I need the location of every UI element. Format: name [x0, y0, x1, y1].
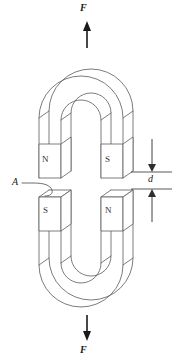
force-label-top: F [80, 3, 87, 13]
upper-crown-depth-right [123, 111, 133, 118]
lower-bend-depth-inner-right [101, 256, 111, 263]
upper-left-pole-side-face [61, 137, 71, 178]
upper-crown-depth-inner-right [101, 113, 111, 120]
arrow-up-icon [83, 21, 91, 31]
dimension-arrow-icon [148, 189, 156, 197]
lower-bend-depth-left [39, 258, 49, 265]
upper-crown-depth-left [39, 111, 49, 118]
pole-label-upper-left: N [42, 155, 49, 164]
lower-magnet [39, 190, 133, 307]
lower-right-pole-side-face [123, 190, 133, 231]
force-arrow-top [83, 21, 91, 48]
lower-left-pole-side-face [61, 190, 71, 231]
dimension-arrow-icon [148, 164, 156, 172]
pole-label-lower-left: S [43, 206, 48, 215]
lower-bend-depth-right [123, 258, 133, 265]
pole-label-lower-right: N [105, 206, 112, 215]
upper-magnet [39, 69, 133, 178]
pole-label-upper-right: S [105, 155, 110, 164]
area-callout-label: A [12, 177, 18, 187]
lower-bend-depth-inner-left [61, 256, 71, 263]
force-arrow-bottom [83, 315, 91, 341]
upper-crown-depth-inner-left [61, 113, 71, 120]
force-label-bottom: F [80, 345, 87, 355]
arrow-down-icon [83, 331, 91, 341]
figure-container: F F N S S N d A [0, 0, 175, 362]
gap-dimension-label: d [148, 174, 153, 184]
